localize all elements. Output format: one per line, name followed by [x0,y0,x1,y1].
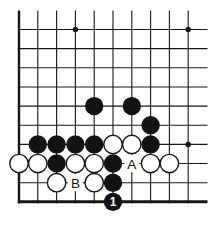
star-point [186,142,191,147]
black-stone [29,135,47,153]
go-board: AB1 [0,0,214,231]
white-stone [85,154,103,172]
black-stone [85,97,103,115]
white-stone [29,154,47,172]
black-stone [141,135,159,153]
black-stone [66,135,84,153]
black-stone [47,135,65,153]
white-stone [66,154,84,172]
white-stone [141,154,159,172]
black-stone [47,154,65,172]
white-stone [47,174,65,192]
black-stone [85,135,103,153]
point-label-b: B [71,176,80,191]
black-stone [104,174,122,192]
white-stone [104,135,122,153]
black-stone [104,154,122,172]
white-stone [85,174,103,192]
white-stone [10,154,28,172]
white-stone [160,154,178,172]
black-stone [123,97,141,115]
black-stone [141,116,159,134]
star-point [186,27,191,32]
star-point [73,27,78,32]
white-stone [123,135,141,153]
move-number-label: 1 [110,195,117,209]
go-problem-diagram: AB1 [0,0,214,231]
point-label-a: A [127,157,136,172]
